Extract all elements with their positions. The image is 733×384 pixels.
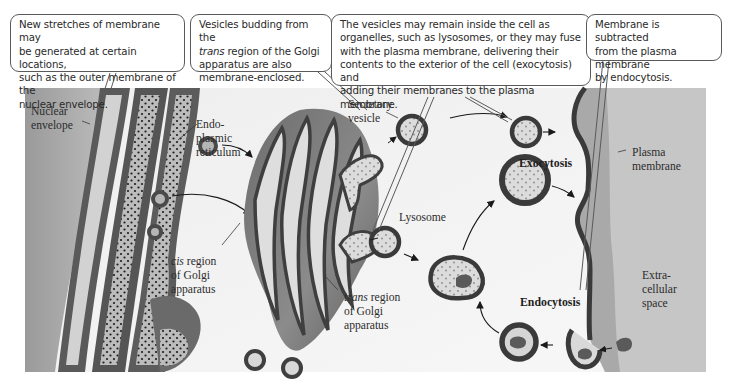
label-cis-golgi: cis region of Golgi apparatus xyxy=(171,255,216,297)
callout-line: be generated at certain locations, xyxy=(19,45,177,72)
italic-term: trans xyxy=(199,46,224,57)
label-nuclear-envelope: Nuclear envelope xyxy=(31,105,73,133)
callout-membrane-subtracted: Membrane is subtracted from the plasma m… xyxy=(586,14,722,61)
callout-vesicle-budding: Vesicles budding from the trans region o… xyxy=(190,14,332,72)
callout-line: with the plasma membrane, delivering the… xyxy=(340,45,583,58)
callout-line: Vesicles budding from the xyxy=(199,18,324,45)
callout-line: membrane-enclosed. xyxy=(199,71,324,84)
label-line: trans region xyxy=(344,291,400,305)
callout-line: Membrane is subtracted xyxy=(595,18,714,45)
label-line: plasmic xyxy=(196,132,240,146)
label-endocytosis: Endocytosis xyxy=(520,295,580,309)
label-line: Extra- xyxy=(642,269,677,283)
label-line: Nuclear xyxy=(31,105,73,119)
callout-line: The vesicles may remain inside the cell … xyxy=(340,18,583,31)
label-line: reticulum xyxy=(196,146,240,160)
italic-term: cis xyxy=(171,255,184,268)
callout-line: such as the outer membrane of the xyxy=(19,71,177,98)
label-trans-golgi: trans region of Golgi apparatus xyxy=(344,291,400,333)
italic-term: trans xyxy=(344,291,368,304)
label-line: vesicle xyxy=(348,112,392,126)
label-secretory-vesicle: Secretory vesicle xyxy=(348,98,392,126)
endomembrane-figure: New stretches of membrane may be generat… xyxy=(0,0,733,384)
callout-line: organelles, such as lysosomes, or they m… xyxy=(340,31,583,44)
label-line: of Golgi xyxy=(344,305,400,319)
label-line: Plasma xyxy=(632,146,681,160)
callout-line: trans region of the Golgi xyxy=(199,45,324,58)
callout-line: apparatus are also xyxy=(199,58,324,71)
label-line: of Golgi xyxy=(171,269,216,283)
callout-text: region of the Golgi xyxy=(224,46,319,57)
callout-line: by endocytosis. xyxy=(595,71,714,84)
label-line: Secretory xyxy=(348,98,392,112)
label-exocytosis: Exocytosis xyxy=(519,156,572,170)
label-extracellular-space: Extra- cellular space xyxy=(642,269,677,311)
callout-vesicle-fate: The vesicles may remain inside the cell … xyxy=(331,14,591,86)
callout-line: New stretches of membrane may xyxy=(19,18,177,45)
label-line: cis region xyxy=(171,255,216,269)
callout-line: from the plasma membrane xyxy=(595,45,714,72)
lysosome xyxy=(371,228,399,256)
label-text: region xyxy=(368,291,401,304)
callout-line: contents to the exterior of the cell (ex… xyxy=(340,58,583,85)
label-line: cellular xyxy=(642,283,677,297)
callout-new-membrane: New stretches of membrane may be generat… xyxy=(10,14,185,72)
label-lysosome: Lysosome xyxy=(399,211,446,225)
label-line: Endo- xyxy=(196,118,240,132)
label-line: membrane xyxy=(632,160,681,174)
secretory-vesicle xyxy=(398,116,426,144)
label-line: apparatus xyxy=(344,319,400,333)
label-text: region xyxy=(184,255,217,268)
label-line: envelope xyxy=(31,119,73,133)
label-endoplasmic-reticulum: Endo- plasmic reticulum xyxy=(196,118,240,160)
label-line: space xyxy=(642,297,677,311)
label-line: apparatus xyxy=(171,283,216,297)
label-plasma-membrane: Plasma membrane xyxy=(632,146,681,174)
